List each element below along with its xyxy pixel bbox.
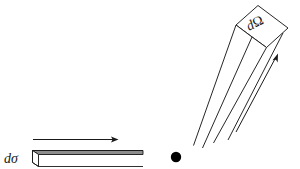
- scattering-center-dot: [171, 152, 181, 162]
- solid-angle-tube-group: dΩ: [194, 6, 289, 149]
- incident-beam-top-face: [33, 151, 144, 155]
- diagram-canvas: dσ dΩ: [0, 0, 300, 169]
- scattering-diagram: dσ dΩ: [0, 0, 300, 169]
- incident-beam-label: dσ: [4, 151, 19, 166]
- incident-beam-label-sigma: σ: [11, 151, 19, 166]
- incident-beam-body: [39, 155, 144, 167]
- incident-direction-arrow: [33, 137, 119, 143]
- incident-beam-group: dσ: [4, 137, 143, 167]
